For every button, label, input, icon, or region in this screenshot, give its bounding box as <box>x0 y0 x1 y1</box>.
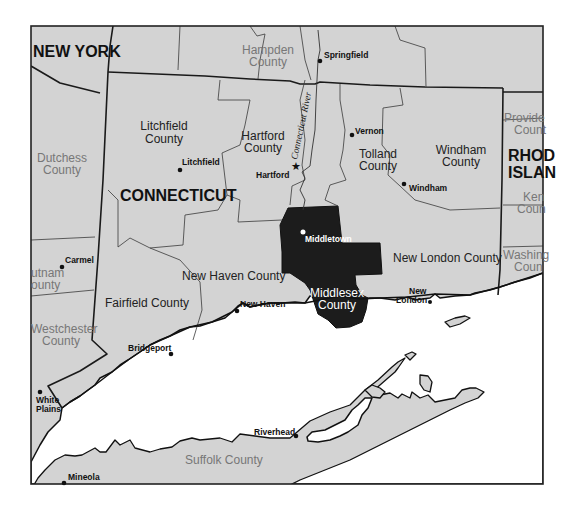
county-label-new-haven: New Haven County <box>182 269 285 283</box>
city-label-mineola: Mineola <box>68 472 100 482</box>
county-label-litchfield: Litchfield <box>140 119 187 133</box>
county-label-fairfield: Fairfield County <box>105 296 189 310</box>
city-label-new-haven: New Haven <box>240 299 285 309</box>
county-label-washington-2: Coun <box>514 260 543 274</box>
city-dot-windham <box>402 182 407 187</box>
county-label-suffolk: Suffolk County <box>185 453 263 467</box>
city-label-bridgeport: Bridgeport <box>128 343 172 353</box>
state-label-connecticut: CONNECTICUT <box>120 187 237 204</box>
capital-star-icon: ★ <box>291 160 301 172</box>
county-label-westchester-2: County <box>42 334 80 348</box>
city-label-riverhead: Riverhead <box>254 427 295 437</box>
county-label-hartford-2: County <box>244 141 282 155</box>
county-label-new-london: New London County <box>393 251 502 265</box>
city-dot-new-london <box>428 300 432 304</box>
city-label-new-london-2: London <box>396 295 427 305</box>
city-label-middletown: Middletown <box>305 234 352 244</box>
county-label-dutchess-2: County <box>43 163 81 177</box>
state-label-rhode-island-1: RHOD <box>508 147 555 164</box>
city-dot-mineola <box>62 481 67 486</box>
city-dot-white-plains <box>38 390 43 395</box>
state-label-rhode-island-2: ISLAN <box>508 164 556 181</box>
county-label-kent-2: Coun <box>517 202 546 216</box>
city-label-white-plains-2: Plains <box>36 404 61 414</box>
city-label-vernon: Vernon <box>355 126 384 136</box>
city-dot-new-haven <box>235 309 240 314</box>
state-label-new-york: NEW YORK <box>33 43 121 60</box>
city-label-litchfield: Litchfield <box>182 157 220 167</box>
city-label-hartford: Hartford <box>256 170 290 180</box>
city-label-springfield: Springfield <box>324 50 368 60</box>
city-dot-carmel <box>60 265 65 270</box>
county-label-putnam-2: ounty <box>31 278 60 292</box>
county-label-providence-2: Count <box>514 123 547 137</box>
city-label-windham: Windham <box>409 183 448 193</box>
county-label-tolland-2: County <box>359 159 397 173</box>
county-label-windham-2: County <box>442 155 480 169</box>
city-dot-springfield <box>318 59 323 64</box>
connecticut-county-map: NEW YORK CONNECTICUT RHOD ISLAN Litchfie… <box>0 0 570 518</box>
county-label-litchfield-2: County <box>145 132 183 146</box>
city-dot-vernon <box>350 133 355 138</box>
city-label-carmel: Carmel <box>65 255 94 265</box>
county-label-hampden-2: County <box>249 55 287 69</box>
city-dot-litchfield <box>178 168 183 173</box>
county-label-middlesex-2: County <box>318 298 356 312</box>
